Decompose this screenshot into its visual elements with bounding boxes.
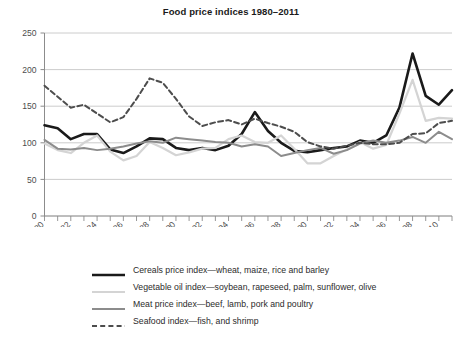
x-tick-label-2002: 2002 xyxy=(315,219,336,227)
y-tick-label-200: 200 xyxy=(22,65,37,75)
chart-figure: Food price indices 1980–2011 05010015020… xyxy=(0,0,462,344)
chart-legend: Cereals price index—wheat, maize, rice a… xyxy=(92,262,462,330)
legend-label: Meat price index—beef, lamb, pork and po… xyxy=(133,300,313,309)
x-tick-label-1982: 1982 xyxy=(52,219,73,227)
legend-label: Seafood index—fish, and shrimp xyxy=(133,317,259,326)
legend-swatch-icon xyxy=(92,300,125,310)
x-axis-tick-labels: 1980198219841986198819901992199419961998… xyxy=(25,219,440,227)
legend-swatch-icon xyxy=(92,266,125,276)
legend-swatch-icon xyxy=(92,283,125,293)
x-tick-label-1992: 1992 xyxy=(183,219,204,227)
legend-label: Cereals price index—wheat, maize, rice a… xyxy=(133,266,329,275)
x-tick-label-2006: 2006 xyxy=(367,219,388,227)
x-tick-label-1990: 1990 xyxy=(157,219,178,227)
chart-title: Food price indices 1980–2011 xyxy=(0,6,462,17)
x-tick-label-1998: 1998 xyxy=(262,219,283,227)
x-tick-label-2004: 2004 xyxy=(341,219,362,227)
y-tick-label-100: 100 xyxy=(22,138,37,148)
y-tick-label-0: 0 xyxy=(32,211,37,221)
legend-item-3: Meat price index—beef, lamb, pork and po… xyxy=(92,296,462,313)
legend-item-2: Vegetable oil index—soybean, rapeseed, p… xyxy=(92,279,462,296)
x-tick-label-1984: 1984 xyxy=(78,219,99,227)
y-tick-label-250: 250 xyxy=(22,28,37,38)
x-tick-label-1996: 1996 xyxy=(236,219,257,227)
plot-area: 050100150200250 198019821984198619881990… xyxy=(0,22,462,227)
x-tick-label-1988: 1988 xyxy=(130,219,151,227)
y-tick-label-150: 150 xyxy=(22,101,37,111)
legend-swatch-icon xyxy=(92,317,125,327)
legend-label: Vegetable oil index—soybean, rapeseed, p… xyxy=(133,283,376,292)
legend-item-4: Seafood index—fish, and shrimp xyxy=(92,313,462,330)
x-tick-label-1986: 1986 xyxy=(104,219,125,227)
x-tick-label-2000: 2000 xyxy=(288,219,309,227)
y-tick-label-50: 50 xyxy=(27,175,37,185)
x-tick-label-1994: 1994 xyxy=(209,219,230,227)
x-tick-label-2010: 2010 xyxy=(420,219,441,227)
chart-plot-svg: 050100150200250 198019821984198619881990… xyxy=(0,22,462,227)
y-axis-tick-labels: 050100150200250 xyxy=(22,28,37,221)
x-tick-label-2008: 2008 xyxy=(393,219,414,227)
legend-item-1: Cereals price index—wheat, maize, rice a… xyxy=(92,262,462,279)
